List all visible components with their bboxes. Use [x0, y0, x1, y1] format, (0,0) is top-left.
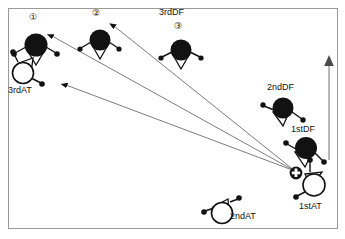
label-1stat: 1stAT [299, 202, 322, 211]
label-1stdf: 1stDF [291, 125, 315, 134]
diagram-canvas: ① ② 3rdDF ③ 3rdAT 2ndDF 1stDF 1stAT 2ndA… [0, 0, 345, 239]
label-circled-1: ① [29, 13, 37, 22]
label-3rdat: 3rdAT [8, 86, 32, 95]
label-circled-3: ③ [174, 22, 182, 31]
diagram-frame [9, 9, 338, 229]
label-2ndat: 2ndAT [230, 212, 256, 221]
label-circled-2: ② [92, 9, 100, 18]
ball-marker-icon[interactable] [290, 167, 303, 180]
label-2nddf: 2ndDF [267, 83, 294, 92]
label-3rddf: 3rdDF [159, 8, 184, 17]
tactics-diagram [0, 0, 345, 239]
